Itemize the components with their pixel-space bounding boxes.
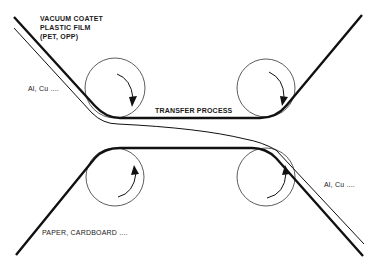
process-label: TRANSFER PROCESS xyxy=(155,106,233,115)
film-label: VACUUM COATET PLASTIC FILM (PET, OPP) xyxy=(40,14,103,41)
substrate-web xyxy=(16,148,363,256)
metal-right-label: Al, Cu .... xyxy=(324,180,355,189)
metal-left-label: Al, Cu .... xyxy=(28,84,59,93)
bottom-right-roller xyxy=(237,148,295,206)
clockwise-arrow-icon xyxy=(117,74,137,107)
clockwise-arrow-icon xyxy=(269,72,288,106)
film-label-line1: VACUUM COATET xyxy=(40,14,103,23)
film-label-line3: (PET, OPP) xyxy=(40,32,103,41)
top-left-roller xyxy=(85,58,145,118)
counterclockwise-arrow-icon xyxy=(118,165,139,197)
substrate-label: PAPER, CARDBOARD .... xyxy=(42,228,128,237)
film-label-line2: PLASTIC FILM xyxy=(40,23,103,32)
metal-layer-web xyxy=(14,28,364,244)
top-right-roller xyxy=(237,59,295,117)
